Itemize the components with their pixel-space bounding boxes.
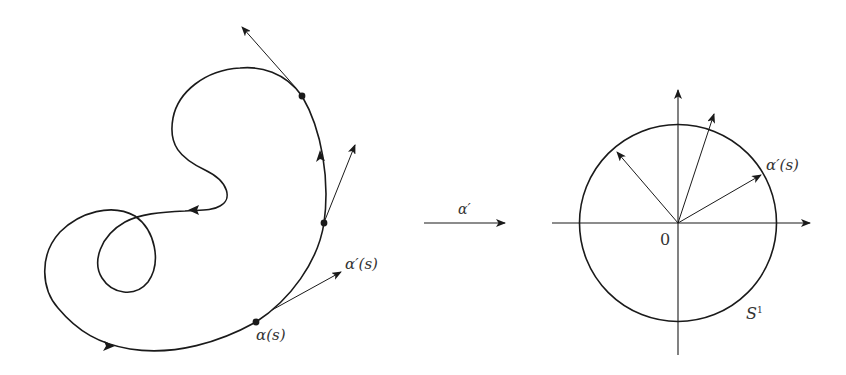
point-alpha-s-dot <box>253 319 260 326</box>
label-s1-sup: 1 <box>757 305 763 315</box>
label-alpha-s-text: α(s) <box>256 326 286 344</box>
tangent-vector-alpha-prime-s <box>272 272 341 310</box>
point-dot <box>321 220 328 227</box>
point-dot <box>299 93 306 100</box>
unit-vector <box>617 152 678 223</box>
tangent-vectors <box>242 27 355 310</box>
label-s1-base: S <box>746 304 757 323</box>
unit-vector <box>678 114 714 223</box>
label-alpha-prime-s-left: α′(s) <box>345 257 378 272</box>
plane-curve <box>45 68 326 351</box>
tangent-vector <box>325 145 355 220</box>
label-alpha-prime-s-right-text: α′(s) <box>766 156 799 174</box>
label-alpha-prime-s-left-text: α′(s) <box>345 255 378 273</box>
label-alpha-prime-s-right: α′(s) <box>766 158 799 173</box>
diagram-svg <box>0 0 846 375</box>
unit-vector-alpha-prime-s <box>678 175 761 223</box>
indicatrix-vectors <box>617 114 761 223</box>
curve-direction-arrows <box>103 150 325 351</box>
arrowhead-right-icon <box>103 341 115 351</box>
arrowhead-up-icon <box>316 150 325 162</box>
coordinate-axes <box>552 90 810 355</box>
label-s1: S1 <box>746 306 763 322</box>
label-map-alpha-prime: α′ <box>458 202 471 216</box>
label-alpha-s: α(s) <box>256 328 286 343</box>
diagram-canvas: α(s) α′(s) α′ 0 α′(s) S1 <box>0 0 846 375</box>
label-map-alpha-prime-text: α′ <box>458 201 471 217</box>
label-origin-text: 0 <box>660 230 670 249</box>
label-origin: 0 <box>660 232 670 248</box>
tangent-vector <box>242 27 296 88</box>
